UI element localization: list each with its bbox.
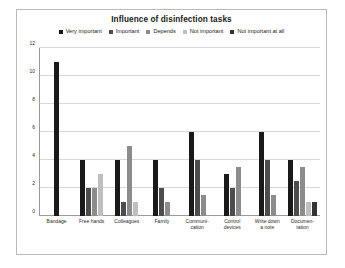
legend-swatch-icon (146, 30, 150, 34)
bar[interactable] (80, 160, 85, 216)
bar[interactable] (127, 146, 132, 216)
legend-swatch-icon (230, 30, 234, 34)
legend-item-important[interactable]: Important (109, 29, 140, 35)
x-axis-tick-labels: BandageFree handsColleaguesFamilyCommuni… (39, 218, 320, 248)
bar[interactable] (288, 160, 293, 216)
bar-group (215, 48, 250, 216)
bar[interactable] (300, 167, 305, 216)
bar[interactable] (306, 202, 311, 216)
legend-label: Important (116, 29, 140, 35)
legend-label: Depends (153, 29, 175, 35)
bar[interactable] (121, 202, 126, 216)
bar[interactable] (259, 132, 264, 216)
bar[interactable] (195, 160, 200, 216)
bar[interactable] (86, 188, 91, 216)
legend-swatch-icon (183, 30, 187, 34)
x-axis-tick-label: Documen-tation (285, 218, 320, 248)
x-axis-tick-label: Write downa note (250, 218, 285, 248)
bar-group (285, 48, 320, 216)
bar[interactable] (294, 181, 299, 216)
bar-group (144, 48, 179, 216)
bar[interactable] (201, 195, 206, 216)
legend-item-not-important[interactable]: Not important (183, 29, 224, 35)
chart-legend: Very important Important Depends Not imp… (17, 29, 326, 35)
bar[interactable] (165, 202, 170, 216)
bar[interactable] (159, 188, 164, 216)
y-axis-tick-label: 6 (32, 125, 35, 130)
chart-title: Influence of disinfection tasks (17, 15, 326, 24)
bar-group (180, 48, 215, 216)
bar[interactable] (133, 202, 138, 216)
legend-swatch-icon (59, 30, 63, 34)
chart-container: Influence of disinfection tasks Very imp… (16, 9, 327, 255)
bar[interactable] (189, 132, 194, 216)
bar-groups (39, 48, 320, 216)
bar-group (74, 48, 109, 216)
x-axis-tick-label: Controldevices (215, 218, 250, 248)
x-axis-tick-label: Bandage (39, 218, 74, 248)
y-axis-tick-label: 0 (32, 209, 35, 214)
y-axis-tick-label: 8 (32, 97, 35, 102)
bar-group (250, 48, 285, 216)
bar[interactable] (115, 160, 120, 216)
bar[interactable] (153, 160, 158, 216)
plot-area (39, 48, 320, 216)
x-axis-tick-label: Family (144, 218, 179, 248)
y-axis-tick-label: 2 (32, 181, 35, 186)
legend-item-not-important-at-all[interactable]: Not important at all (230, 29, 284, 35)
bar-group (109, 48, 144, 216)
x-axis-tick-label: Communi-cation (180, 218, 215, 248)
x-axis-tick-label: Colleagues (109, 218, 144, 248)
bar[interactable] (230, 188, 235, 216)
y-axis-tick-label: 12 (29, 41, 35, 46)
x-axis-tick-label: Free hands (74, 218, 109, 248)
y-axis-tick-labels: 024681012 (17, 48, 37, 216)
bar[interactable] (54, 62, 59, 216)
legend-label: Very important (66, 29, 102, 35)
bar[interactable] (224, 174, 229, 216)
bar[interactable] (271, 195, 276, 216)
legend-label: Not important at all (237, 29, 284, 35)
y-axis-tick-label: 10 (29, 69, 35, 74)
bar[interactable] (312, 202, 317, 216)
bar-group (39, 48, 74, 216)
y-axis-tick-label: 4 (32, 153, 35, 158)
bar[interactable] (265, 160, 270, 216)
legend-item-depends[interactable]: Depends (146, 29, 175, 35)
legend-swatch-icon (109, 30, 113, 34)
bar[interactable] (98, 174, 103, 216)
legend-label: Not important (190, 29, 224, 35)
legend-item-very-important[interactable]: Very important (59, 29, 102, 35)
bar[interactable] (92, 188, 97, 216)
bar[interactable] (236, 167, 241, 216)
